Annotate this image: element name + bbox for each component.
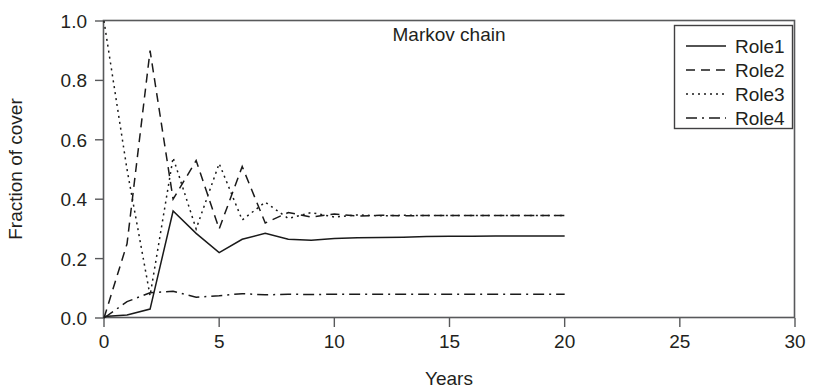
legend-label: Role1 [735, 36, 785, 57]
x-tick-label: 10 [324, 331, 345, 352]
x-tick-label: 25 [669, 331, 690, 352]
y-tick-label: 1.0 [61, 11, 87, 32]
y-tick-label: 0.0 [61, 308, 87, 329]
x-tick-label: 30 [784, 331, 805, 352]
y-axis-title: Fraction of cover [5, 98, 26, 240]
chart-container: 051015202530 0.00.20.40.60.81.0 Markov c… [0, 0, 818, 391]
legend-label: Role4 [735, 108, 785, 129]
x-tick-label: 0 [99, 331, 110, 352]
legend-label: Role3 [735, 84, 785, 105]
legend: Role1Role2Role3Role4 [675, 26, 793, 130]
y-tick-label: 0.4 [61, 189, 88, 210]
x-axis-title: Years [425, 368, 473, 389]
chart-title: Markov chain [393, 24, 506, 45]
y-tick-label: 0.2 [61, 249, 87, 270]
y-tick-label: 0.6 [61, 130, 87, 151]
markov-chain-line-chart: 051015202530 0.00.20.40.60.81.0 Markov c… [0, 0, 818, 391]
x-tick-label: 5 [214, 331, 225, 352]
x-tick-label: 15 [439, 331, 460, 352]
x-tick-label: 20 [554, 331, 575, 352]
y-tick-label: 0.8 [61, 70, 87, 91]
legend-label: Role2 [735, 60, 785, 81]
